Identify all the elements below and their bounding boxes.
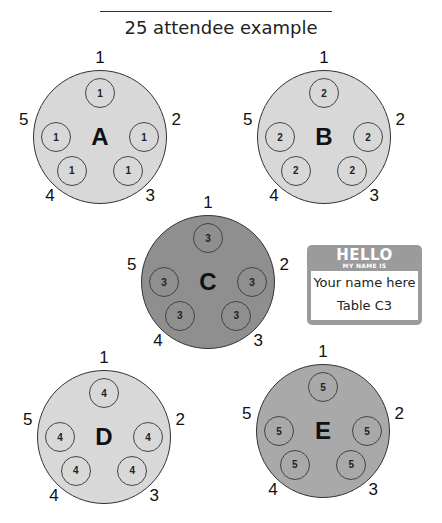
seat-position-label: 1	[92, 48, 108, 68]
table-a: A11111	[33, 70, 167, 204]
seat: 3	[149, 267, 179, 297]
seat: 2	[281, 156, 311, 186]
seat: 2	[309, 78, 339, 108]
seat: 1	[129, 122, 159, 152]
seat: 1	[57, 156, 87, 186]
top-divider-line	[100, 11, 332, 12]
diagram-title: 25 attendee example	[0, 17, 442, 38]
table-b: B22222	[257, 70, 391, 204]
name-tag-table: Table C3	[311, 298, 418, 313]
seat-position-label: 2	[172, 410, 188, 430]
seat-position-label: 3	[365, 480, 381, 500]
seat: 3	[193, 223, 223, 253]
seat-position-label: 5	[239, 404, 255, 424]
seat: 1	[41, 122, 71, 152]
seat: 3	[221, 301, 251, 331]
seat: 4	[45, 422, 75, 452]
seat: 5	[308, 372, 338, 402]
seat: 2	[353, 122, 383, 152]
seat-position-label: 4	[150, 331, 166, 351]
seat: 5	[352, 416, 382, 446]
seat-position-label: 5	[20, 410, 36, 430]
seat: 5	[280, 450, 310, 480]
seat-position-label: 4	[265, 480, 281, 500]
seat-position-label: 2	[391, 404, 407, 424]
seat: 2	[265, 122, 295, 152]
table-c: C33333	[141, 215, 275, 349]
seat: 3	[165, 301, 195, 331]
seat: 1	[113, 156, 143, 186]
seat-position-label: 5	[16, 110, 32, 130]
name-tag-name: Your name here	[311, 275, 418, 290]
seat-position-label: 2	[392, 110, 408, 130]
seat-position-label: 4	[266, 186, 282, 206]
seat-position-label: 1	[200, 193, 216, 213]
name-tag: HELLO MY NAME IS Your name here Table C3	[307, 245, 422, 325]
seat-position-label: 5	[240, 110, 256, 130]
seat-position-label: 3	[146, 486, 162, 506]
seat-position-label: 5	[124, 255, 140, 275]
name-tag-subtitle: MY NAME IS	[307, 262, 422, 269]
seat-position-label: 1	[316, 48, 332, 68]
seat-position-label: 1	[96, 348, 112, 368]
seat-position-label: 3	[366, 186, 382, 206]
seat: 5	[264, 416, 294, 446]
seat: 4	[61, 456, 91, 486]
name-tag-body: Your name here Table C3	[311, 271, 418, 320]
seat: 4	[133, 422, 163, 452]
seat: 3	[237, 267, 267, 297]
seat-position-label: 2	[168, 110, 184, 130]
seat: 4	[89, 378, 119, 408]
table-e: E55555	[256, 364, 390, 498]
seat-position-label: 3	[250, 331, 266, 351]
seat-position-label: 1	[315, 342, 331, 362]
seat: 1	[85, 78, 115, 108]
seat: 5	[336, 450, 366, 480]
seat-position-label: 2	[276, 255, 292, 275]
seat-position-label: 3	[142, 186, 158, 206]
seat: 4	[117, 456, 147, 486]
seat-position-label: 4	[46, 486, 62, 506]
seat: 2	[337, 156, 367, 186]
table-d: D44444	[37, 370, 171, 504]
seat-position-label: 4	[42, 186, 58, 206]
